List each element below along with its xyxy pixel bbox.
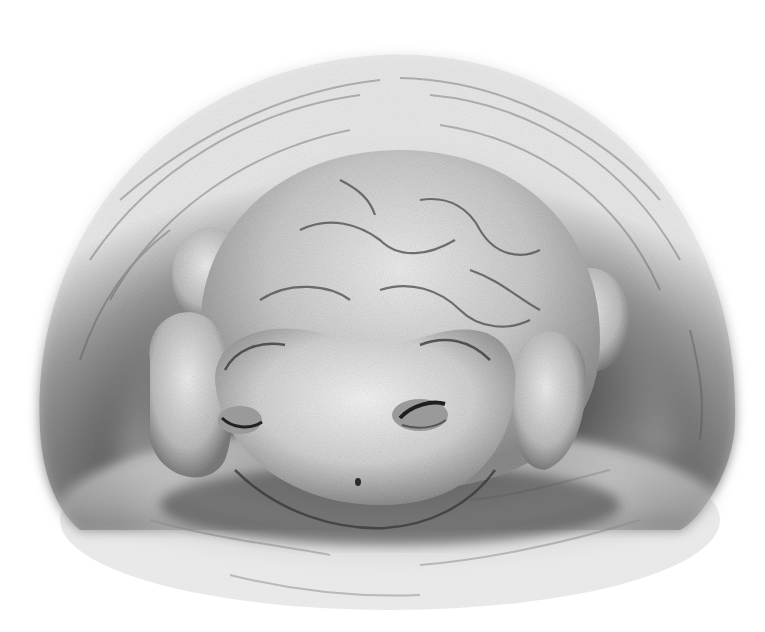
illustration-canvas (0, 0, 765, 632)
toad-burrow-illustration (0, 0, 765, 632)
toad-right-eye (392, 399, 448, 431)
toad-left-eye (218, 406, 262, 434)
toad-nostril (355, 478, 361, 486)
